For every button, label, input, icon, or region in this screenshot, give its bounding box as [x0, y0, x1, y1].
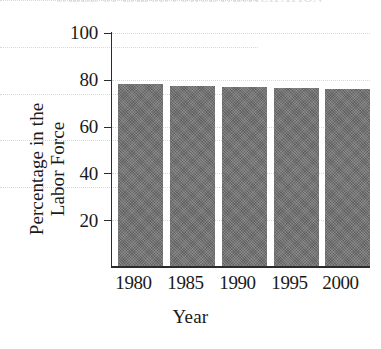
- plot-gridline-80: [112, 80, 370, 81]
- y-axis-title: Percentage in the Labor Force: [26, 59, 68, 279]
- y-axis-title-line-2: Labor Force: [47, 59, 68, 279]
- y-tick-20: [104, 220, 112, 221]
- y-tick-60: [104, 127, 112, 128]
- bar-1995[interactable]: [274, 88, 319, 267]
- x-tick-label-1990: 1990: [209, 272, 266, 294]
- bar-1990[interactable]: [222, 87, 267, 267]
- plot-gridline-100: [112, 33, 370, 34]
- y-tick-100: [104, 33, 112, 34]
- x-tick-label-1980: 1980: [105, 272, 162, 294]
- bar-1985[interactable]: [170, 86, 215, 267]
- y-tick-80: [104, 80, 112, 81]
- y-axis-title-line-1: Percentage in the: [26, 59, 47, 279]
- x-tick-label-1985: 1985: [157, 272, 214, 294]
- x-axis-spine: [111, 266, 370, 268]
- bar-1980[interactable]: [118, 84, 163, 267]
- y-tick-label-100: 100: [52, 23, 98, 42]
- bar-2000[interactable]: [325, 89, 370, 267]
- x-tick-label-1995: 1995: [261, 272, 318, 294]
- bar-chart: 100 80 60 40 20 1980 1985 1990 1995 2000…: [0, 0, 381, 349]
- gridline-100: [0, 0, 258, 1]
- plot-area: [112, 33, 370, 267]
- y-tick-40: [104, 173, 112, 174]
- x-tick-label-2000: 2000: [312, 272, 369, 294]
- x-axis-title: Year: [0, 306, 381, 328]
- y-axis-spine: [111, 32, 112, 268]
